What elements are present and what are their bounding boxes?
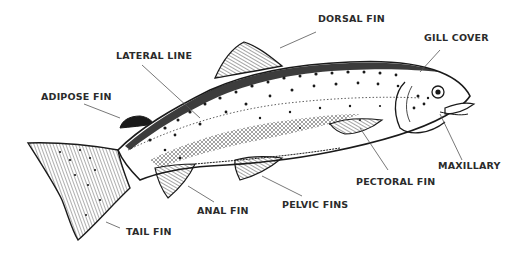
label-pelvic-fins: PELVIC FINS <box>282 200 348 210</box>
leader-adipose-fin <box>84 104 120 118</box>
anal-fin-shape <box>155 164 195 198</box>
pelvic-fin-shape <box>235 157 282 180</box>
label-adipose-fin: ADIPOSE FIN <box>41 92 112 102</box>
label-anal-fin: ANAL FIN <box>197 206 249 216</box>
leader-dorsal-fin <box>280 32 316 48</box>
label-tail-fin: TAIL FIN <box>126 227 172 237</box>
label-maxillary: MAXILLARY <box>438 161 501 171</box>
leader-tail-fin <box>106 222 120 228</box>
label-gill-cover: GILL COVER <box>424 33 489 43</box>
leader-anal-fin <box>188 186 214 202</box>
label-pectoral-fin: PECTORAL FIN <box>356 177 435 187</box>
trout-anatomy-diagram: DORSAL FIN GILL COVER LATERAL LINE ADIPO… <box>0 0 524 253</box>
label-lateral-line: LATERAL LINE <box>116 51 192 61</box>
leader-pelvic-fins <box>262 176 302 196</box>
leader-maxillary <box>440 114 462 160</box>
label-dorsal-fin: DORSAL FIN <box>318 14 385 24</box>
